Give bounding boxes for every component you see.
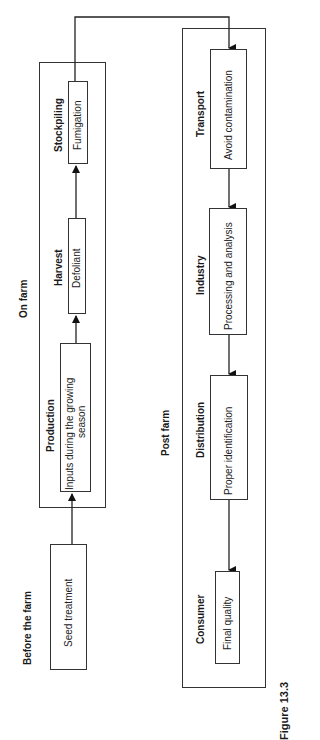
consumer-text: Final quality — [222, 597, 233, 650]
figure-caption: Figure 13.3 — [278, 682, 290, 740]
stockpiling-stage-label: Stockpiling — [53, 98, 64, 152]
seed-treatment-text: Seed treatment — [63, 579, 74, 647]
distribution-stage-label: Distribution — [195, 402, 206, 458]
production-stage-label: Production — [45, 399, 56, 452]
harvest-text: Defoliant — [71, 249, 82, 288]
stockpiling-text: Fumigation — [72, 101, 83, 150]
transport-text: Avoid contamination — [223, 70, 234, 160]
transport-stage-label: Transport — [195, 91, 206, 137]
consumer-stage-label: Consumer — [195, 595, 206, 644]
distribution-text: Proper identification — [223, 407, 234, 495]
harvest-stage-label: Harvest — [53, 249, 64, 286]
production-text-line2: season — [76, 406, 87, 438]
industry-stage-label: Industry — [195, 256, 206, 295]
production-text-line1: Inputs during the growing — [64, 378, 75, 490]
industry-text: Processing and analysis — [223, 222, 234, 330]
